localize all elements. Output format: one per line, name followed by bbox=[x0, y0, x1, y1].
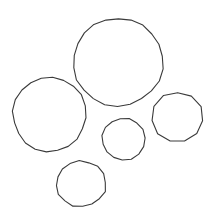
image-canvas bbox=[0, 0, 207, 216]
circle-right bbox=[152, 93, 203, 141]
circle-small-middle bbox=[102, 119, 145, 160]
circle-left bbox=[12, 77, 86, 152]
circle-large-top-center bbox=[74, 19, 163, 107]
circle-bottom bbox=[56, 161, 105, 207]
shape-canvas-svg bbox=[0, 0, 207, 216]
